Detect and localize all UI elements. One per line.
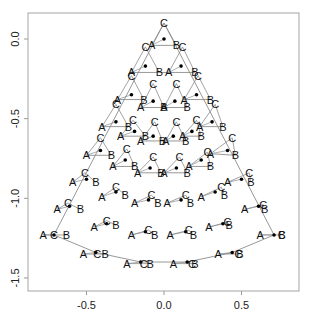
- center-point: [151, 134, 155, 138]
- vertex-label-a: A: [123, 258, 131, 270]
- vertex-label-c: C: [127, 70, 135, 82]
- center-point: [114, 120, 118, 124]
- vertex-label-c: C: [149, 78, 157, 90]
- vertex-label-c: C: [81, 167, 89, 179]
- center-point: [144, 64, 148, 68]
- vertex-label-c: C: [224, 216, 232, 228]
- center-point: [175, 166, 179, 170]
- vertex-label-a: A: [224, 176, 232, 188]
- vertex-label-c: C: [211, 98, 219, 110]
- vertex-label-c: C: [140, 258, 148, 270]
- center-point: [151, 99, 155, 103]
- vertex-label-c: C: [234, 248, 242, 260]
- center-point: [210, 120, 214, 124]
- vertex-label-a: A: [162, 135, 170, 147]
- center-point: [199, 158, 203, 162]
- vertex-label-c: C: [50, 229, 58, 241]
- vertex-label-b: B: [63, 229, 70, 241]
- center-point: [195, 93, 199, 97]
- center-point: [99, 149, 103, 153]
- center-point: [130, 93, 134, 97]
- vertex-label-c: C: [103, 215, 111, 227]
- vertex-label-b: B: [101, 248, 108, 260]
- vertex-label-a: A: [160, 101, 168, 113]
- vertex-label-a: A: [167, 229, 175, 241]
- vertex-label-a: A: [170, 258, 178, 270]
- vertex-label-b: B: [219, 121, 226, 133]
- vertex-label-c: C: [245, 167, 253, 179]
- vertex-label-a: A: [160, 167, 168, 179]
- vertex-label-c: C: [172, 78, 180, 90]
- vertex-label-c: C: [141, 41, 149, 53]
- vertex-label-c: C: [129, 114, 137, 126]
- vertex-label-c: C: [228, 132, 236, 144]
- vertex-label-a: A: [128, 229, 136, 241]
- vertex-label-a: A: [109, 160, 117, 172]
- vertex-label-a: A: [53, 203, 61, 215]
- vertex-label-c: C: [182, 189, 190, 201]
- vertex-label-c: C: [185, 224, 193, 236]
- vertex-label-a: A: [196, 121, 204, 133]
- y-tick-label: -1.5: [9, 268, 21, 287]
- vertex-label-b: B: [77, 203, 84, 215]
- center-point: [123, 158, 127, 162]
- vertex-label-a: A: [137, 101, 145, 113]
- vertex-label-c: C: [176, 151, 184, 163]
- vertex-label-a: A: [98, 191, 106, 203]
- vertex-label-c: C: [96, 132, 104, 144]
- x-tick-label: -0.5: [77, 299, 96, 311]
- vertex-label-a: A: [163, 197, 171, 209]
- vertex-label-c: C: [149, 151, 157, 163]
- vertex-label-a: A: [137, 135, 145, 147]
- vertex-label-b: B: [232, 149, 239, 161]
- vertex-label-a: A: [207, 148, 215, 160]
- vertex-label-c: C: [145, 224, 153, 236]
- vertex-label-a: A: [134, 167, 142, 179]
- vertex-label-a: A: [256, 229, 264, 241]
- vertex-label-a: A: [91, 221, 99, 233]
- center-point: [179, 64, 183, 68]
- vertex-label-c: C: [112, 181, 120, 193]
- vertex-label-a: A: [179, 130, 187, 142]
- vertex-label-c: C: [188, 258, 196, 270]
- vertex-label-a: A: [83, 149, 91, 161]
- vertex-labels: ABCABCABCABCABCABCABCABCABCABCABCABCABCA…: [39, 17, 285, 270]
- center-point: [272, 233, 276, 237]
- vertex-label-a: A: [69, 176, 77, 188]
- center-point: [173, 99, 177, 103]
- y-tick-label: -1.0: [9, 189, 21, 208]
- center-point: [133, 130, 137, 134]
- vertex-label-a: A: [117, 130, 125, 142]
- vertex-label-b: B: [92, 176, 99, 188]
- vertex-label-a: A: [39, 229, 47, 241]
- center-point: [226, 149, 230, 153]
- center-point: [172, 134, 176, 138]
- vertex-label-c: C: [172, 116, 180, 128]
- vertex-label-a: A: [215, 248, 223, 260]
- vertex-label-c: C: [151, 116, 159, 128]
- x-tick-label: 0.5: [234, 299, 249, 311]
- vertex-label-c: C: [64, 197, 72, 209]
- center-point: [148, 166, 152, 170]
- vertex-label-b: B: [122, 189, 129, 201]
- vertex-label-c: C: [123, 143, 131, 155]
- vertex-label-b: B: [207, 160, 214, 172]
- vertex-label-c: C: [259, 199, 267, 211]
- vertex-label-c: C: [112, 98, 120, 110]
- vertex-label-a: A: [205, 221, 213, 233]
- y-axis: 0.0-0.5-1.0-1.5: [9, 31, 28, 287]
- center-point: [240, 177, 244, 181]
- y-tick-label: -0.5: [9, 109, 21, 128]
- vertex-label-c: C: [278, 229, 286, 241]
- plot-frame: [28, 13, 299, 291]
- x-tick-label: 0.0: [156, 299, 171, 311]
- vertex-label-b: B: [112, 219, 119, 231]
- vertex-label-a: A: [241, 203, 249, 215]
- chart: -0.50.00.5 0.0-0.5-1.0-1.5 ABCABCABCABCA…: [0, 0, 312, 319]
- vertex-label-a: A: [131, 197, 139, 209]
- vertex-label-c: C: [194, 70, 202, 82]
- y-tick-label: 0.0: [9, 31, 21, 46]
- vertex-label-a: A: [198, 191, 206, 203]
- vertex-label-c: C: [93, 248, 101, 260]
- vertex-label-a: A: [80, 248, 88, 260]
